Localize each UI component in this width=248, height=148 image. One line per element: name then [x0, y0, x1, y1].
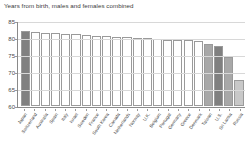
x-axis-label-slot: Switzerland	[29, 112, 39, 148]
x-axis-label-slot: Denmark	[194, 112, 204, 148]
bar	[21, 31, 30, 106]
y-axis-tick-label: 65	[8, 87, 15, 93]
x-axis-tick-mark	[240, 109, 241, 111]
bar	[71, 34, 80, 106]
bar	[133, 38, 142, 106]
x-axis-label-slot: Belgium	[152, 112, 162, 148]
gridline	[18, 22, 245, 23]
x-axis-tick-mark	[75, 109, 76, 111]
gridline	[18, 73, 245, 74]
bar	[82, 35, 91, 106]
y-axis: 606570758085	[0, 18, 17, 112]
x-axis-label-slot: U.K.	[142, 112, 152, 148]
x-axis-label-slot: Italy	[60, 112, 70, 148]
x-axis-label-slot: Taiwan	[204, 112, 214, 148]
x-axis-label-slot: Spain	[50, 112, 60, 148]
bar	[41, 33, 50, 106]
x-axis-tick-mark	[96, 109, 97, 111]
x-axis-tick-mark	[117, 109, 118, 111]
y-axis-tick-label: 80	[8, 36, 15, 42]
bar	[224, 57, 233, 106]
x-axis-labels: JapanSwitzerlandAustraliaSpainItalyIsrae…	[18, 112, 246, 148]
bar	[234, 80, 243, 106]
x-axis-label-slot: Norway	[132, 112, 142, 148]
x-axis-label-slot: Netherlands	[122, 112, 132, 148]
x-axis-label-slot: Germany	[173, 112, 183, 148]
chart-title: Years from birth, males and females comb…	[4, 2, 134, 9]
x-axis-label-slot: South Korea	[101, 112, 111, 148]
x-axis-tick-label: Spain	[48, 112, 59, 124]
y-axis-tick-label: 75	[8, 53, 15, 59]
x-axis-tick-mark	[219, 109, 220, 111]
x-axis-label-slot: Israel	[70, 112, 80, 148]
y-axis-tick-label: 70	[8, 70, 15, 76]
chart-screenshot: Years from birth, males and females comb…	[0, 0, 248, 148]
bar	[102, 36, 111, 106]
x-axis-label-slot: Russia	[235, 112, 245, 148]
x-axis-tick-mark	[65, 109, 66, 111]
x-axis-tick-mark	[106, 109, 107, 111]
bar	[112, 37, 121, 106]
gridline	[18, 39, 245, 40]
x-axis-label-slot: Sweden	[81, 112, 91, 148]
x-axis-label-slot: Australia	[40, 112, 50, 148]
bar	[92, 36, 101, 106]
x-axis-tick-mark	[45, 109, 46, 111]
x-axis-tick-mark	[178, 109, 179, 111]
x-axis-tick-label: U.K.	[142, 112, 151, 122]
x-axis-tick-mark	[147, 109, 148, 111]
bar	[214, 46, 223, 106]
bar-series	[19, 22, 245, 106]
plot-area	[17, 22, 245, 108]
y-axis-tick-label: 60	[8, 104, 15, 110]
bar	[31, 32, 40, 106]
x-axis-tick-mark	[168, 109, 169, 111]
x-axis-tick-mark	[188, 109, 189, 111]
bar	[143, 38, 152, 106]
x-axis-tick-mark	[55, 109, 56, 111]
bar	[51, 33, 60, 106]
x-axis-label-slot: Sri Lanka	[224, 112, 234, 148]
x-axis-label-slot: U.S.	[214, 112, 224, 148]
bar	[204, 44, 213, 106]
x-axis-tick-mark	[34, 109, 35, 111]
y-axis-tick-label: 85	[8, 19, 15, 25]
x-axis-tick-mark	[229, 109, 230, 111]
bar	[61, 34, 70, 106]
gridline	[18, 90, 245, 91]
plot-wrapper: 606570758085	[0, 18, 248, 112]
gridline	[18, 56, 245, 57]
x-axis-tick-mark	[209, 109, 210, 111]
bar	[122, 37, 131, 106]
